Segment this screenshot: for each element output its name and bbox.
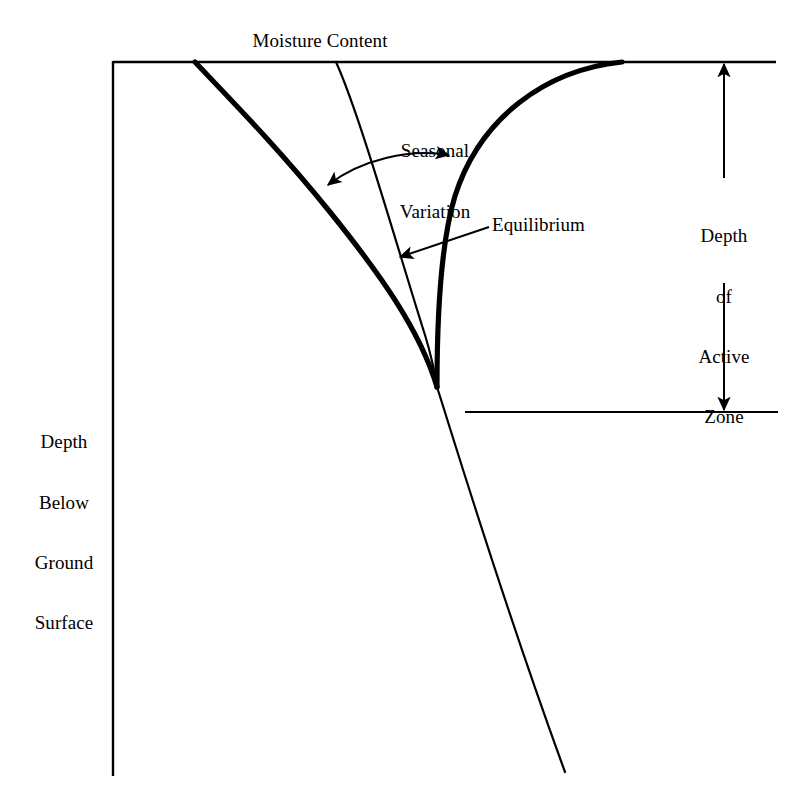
depth-below-ground-label-line-1: Depth [14, 432, 114, 452]
seasonal-variation-label: Seasonal Variation [355, 101, 515, 262]
depth-of-active-zone-label-line-3: Active [664, 347, 784, 367]
seasonal-variation-label-line-2: Variation [355, 202, 515, 222]
depth-below-ground-label-line-4: Surface [14, 613, 114, 633]
depth-of-active-zone-label: Depth of Active Zone [664, 186, 784, 468]
moisture-content-axis-title: Moisture Content [0, 31, 640, 51]
depth-below-ground-label-line-3: Ground [14, 553, 114, 573]
depth-below-ground-label-line-2: Below [14, 493, 114, 513]
depth-of-active-zone-label-line-2: of [664, 287, 784, 307]
depth-of-active-zone-label-line-4: Zone [664, 407, 784, 427]
moisture-depth-diagram: Moisture Content Seasonal Variation Equi… [0, 0, 809, 802]
equilibrium-label: Equilibrium [492, 215, 585, 235]
depth-below-ground-surface-axis-title: Depth Below Ground Surface [14, 392, 114, 674]
depth-of-active-zone-label-line-1: Depth [664, 226, 784, 246]
seasonal-variation-label-line-1: Seasonal [355, 141, 515, 161]
